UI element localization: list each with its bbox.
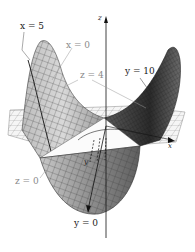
- surface-bowl: [40, 146, 140, 214]
- label-z-equals-4: z = 4: [80, 70, 104, 80]
- label-x-equals-0: x = 0: [66, 40, 90, 50]
- label-z-equals-0: z = 0: [15, 176, 39, 186]
- label-y-equals-10: y = 10: [125, 66, 155, 76]
- surface-drawing: [0, 0, 195, 252]
- saddle-surface-figure: x = 5 x = 0 z = 4 y = 10 z = 0 y = 0 z x…: [0, 0, 195, 252]
- axis-label-y: y: [84, 158, 88, 166]
- label-x-equals-5: x = 5: [20, 21, 44, 31]
- axis-label-z: z: [98, 14, 102, 22]
- axis-label-x: x: [168, 142, 172, 150]
- label-y-equals-0: y = 0: [74, 218, 98, 228]
